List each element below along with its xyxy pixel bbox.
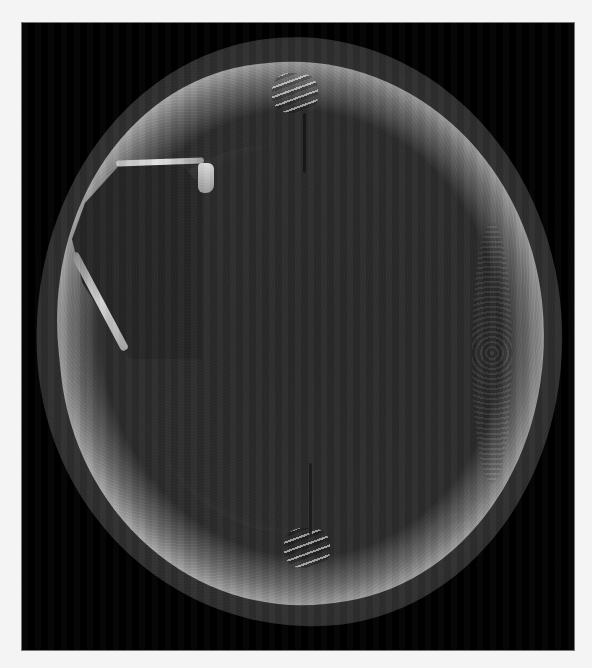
occipital-suture <box>284 528 330 568</box>
frontal-suture <box>272 73 318 113</box>
ct-image-frame <box>21 22 575 651</box>
falx-posterior <box>309 463 312 535</box>
bone-flap-margin <box>198 163 214 193</box>
diploic-bone-texture <box>472 223 512 483</box>
falx-anterior <box>303 113 306 173</box>
